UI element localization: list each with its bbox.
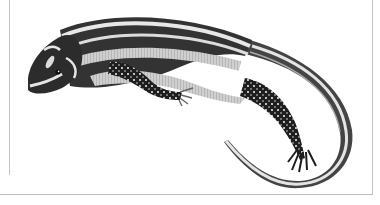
lizard-illustration: [0, 0, 380, 205]
hind-leg: [240, 78, 316, 172]
eye: [55, 69, 60, 74]
